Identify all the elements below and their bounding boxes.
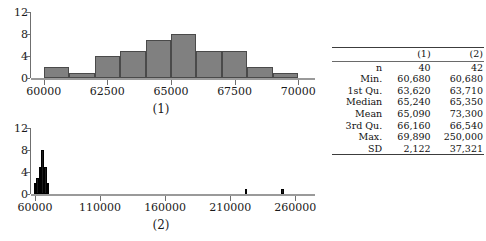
x-tick-label: 67500 (217, 86, 252, 98)
figure-area: 04812 6000062500650006750070000 (1) 0481… (0, 0, 322, 241)
y-tick-mark (26, 194, 30, 195)
x-tick-label: 210000 (209, 202, 251, 214)
plot-area-2: 04812 60000110000160000210000260000 (0, 120, 322, 214)
histogram-bars-2 (31, 128, 311, 194)
cell-column-2: 65,350 (434, 96, 484, 108)
histogram-bar (146, 40, 171, 79)
table-body: n4042Min.60,68060,6801st Qu.63,62063,710… (332, 61, 484, 155)
table-header-row: (1) (2) (332, 48, 484, 62)
histogram-bar (120, 51, 145, 79)
y-tick-mark (26, 150, 30, 151)
x-tick-label: 160000 (144, 202, 186, 214)
table-row: 1st Qu.63,62063,710 (332, 85, 484, 97)
histogram-bar (44, 67, 69, 78)
panel-caption-1: (1) (0, 102, 322, 116)
cell-column-1: 66,160 (387, 120, 433, 132)
cell-column-2: 73,300 (434, 108, 484, 120)
cell-column-2: 42 (434, 61, 484, 73)
row-label: 3rd Qu. (332, 120, 387, 132)
x-axis-labels-1: 6000062500650006750070000 (31, 86, 315, 100)
histogram-bar (247, 67, 272, 78)
row-label: Max. (332, 131, 387, 143)
table-row: SD2,12237,321 (332, 143, 484, 155)
table-row: 3rd Qu.66,16066,540 (332, 120, 484, 132)
row-label: SD (332, 143, 387, 155)
x-tick-label: 70000 (281, 86, 316, 98)
cell-column-1: 65,240 (387, 96, 433, 108)
histogram-panel-2: 04812 60000110000160000210000260000 (2) (0, 120, 322, 241)
table-row: Min.60,68060,680 (332, 73, 484, 85)
y-tick-mark (26, 56, 30, 57)
column-header-1: (1) (387, 48, 433, 62)
x-tick-label: 60000 (17, 202, 52, 214)
y-tick-mark (26, 78, 30, 79)
cell-column-2: 250,000 (434, 131, 484, 143)
row-label: Median (332, 96, 387, 108)
row-label: Min. (332, 73, 387, 85)
table-row: Max.69,890250,000 (332, 131, 484, 143)
cell-column-1: 60,680 (387, 73, 433, 85)
column-header-2: (2) (434, 48, 484, 62)
y-tick-mark (26, 12, 30, 13)
table-row: n4042 (332, 61, 484, 73)
y-axis-labels-2: 04812 (0, 120, 28, 194)
histogram-panel-1: 04812 6000062500650006750070000 (1) (0, 4, 322, 120)
histogram-bars-1 (31, 12, 311, 78)
x-axis-labels-2: 60000110000160000210000260000 (31, 202, 315, 216)
y-tick-mark (26, 34, 30, 35)
x-tick-label: 60000 (26, 86, 61, 98)
cell-column-1: 63,620 (387, 85, 433, 97)
summary-table-area: (1) (2) n4042Min.60,68060,6801st Qu.63,6… (330, 0, 486, 241)
y-tick-mark (26, 128, 30, 129)
x-tick-label: 65000 (154, 86, 189, 98)
table-row: Median65,24065,350 (332, 96, 484, 108)
cell-column-2: 66,540 (434, 120, 484, 132)
panel-caption-2: (2) (0, 218, 322, 232)
histogram-bar (196, 51, 221, 79)
cell-column-2: 37,321 (434, 143, 484, 155)
cell-column-1: 40 (387, 61, 433, 73)
histogram-bar (95, 56, 120, 78)
table-header: (1) (2) (332, 48, 484, 62)
cell-column-1: 69,890 (387, 131, 433, 143)
row-label: 1st Qu. (332, 85, 387, 97)
histogram-bar (171, 34, 196, 78)
cell-column-1: 2,122 (387, 143, 433, 155)
x-tick-label: 110000 (79, 202, 121, 214)
x-tick-label: 62500 (90, 86, 125, 98)
x-tick-label: 260000 (274, 202, 316, 214)
cell-column-2: 60,680 (434, 73, 484, 85)
histogram-bar (222, 51, 247, 79)
table-row: Mean65,09073,300 (332, 108, 484, 120)
summary-statistics-table: (1) (2) n4042Min.60,68060,6801st Qu.63,6… (332, 47, 484, 155)
cell-column-2: 63,710 (434, 85, 484, 97)
cell-column-1: 65,090 (387, 108, 433, 120)
row-label: Mean (332, 108, 387, 120)
plot-area-1: 04812 6000062500650006750070000 (0, 4, 322, 98)
column-header-blank (332, 48, 387, 62)
y-axis-labels-1: 04812 (0, 4, 28, 78)
y-tick-mark (26, 172, 30, 173)
histogram-bar (47, 183, 50, 194)
row-label: n (332, 61, 387, 73)
